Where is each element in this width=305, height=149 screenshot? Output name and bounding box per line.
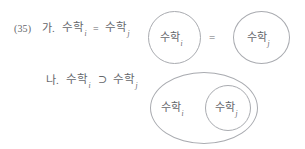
operator-na: ⊃	[98, 74, 107, 85]
circle-set-i-subscript: i	[180, 39, 182, 48]
term-na-right-subscript: j	[135, 81, 137, 90]
circle-set-j-inner-label: 수학j	[215, 102, 238, 116]
term-ga-right-subscript: j	[127, 29, 129, 38]
term-na-left-subscript: i	[88, 81, 90, 90]
item-label-na: 나.	[46, 75, 59, 86]
circle-set-j-inner-base: 수학	[215, 101, 235, 113]
item-label-ga: 가.	[42, 23, 55, 34]
term-na-right: 수학j	[113, 74, 138, 88]
circle-set-j-label: 수학j	[247, 32, 270, 46]
ellipse-set-i-label: 수학i	[161, 102, 184, 116]
circle-set-i-label: 수학i	[160, 32, 183, 46]
term-ga-right: 수학j	[105, 22, 130, 36]
operator-ga: =	[93, 24, 99, 34]
term-ga-left: 수학i	[62, 22, 87, 36]
circle-set-j-inner-subscript: j	[235, 109, 237, 118]
term-na-left: 수학i	[66, 74, 91, 88]
diagram-relation-symbol: =	[209, 32, 215, 43]
term-ga-left-subscript: i	[84, 29, 86, 38]
circle-set-j-subscript: j	[267, 39, 269, 48]
example-number: (35)	[14, 24, 31, 34]
term-ga-right-base: 수학	[105, 21, 127, 33]
term-na-left-base: 수학	[66, 73, 88, 85]
ellipse-set-i-subscript: i	[181, 109, 183, 118]
scanned-figure-page: (35) 가. 수학i = 수학j 수학i = 수학j 나. 수학i ⊃ 수학j…	[0, 0, 305, 149]
ellipse-set-i-base: 수학	[161, 101, 181, 113]
circle-set-j-base: 수학	[247, 31, 267, 43]
term-na-right-base: 수학	[113, 73, 135, 85]
term-ga-left-base: 수학	[62, 21, 84, 33]
circle-set-i-base: 수학	[160, 31, 180, 43]
